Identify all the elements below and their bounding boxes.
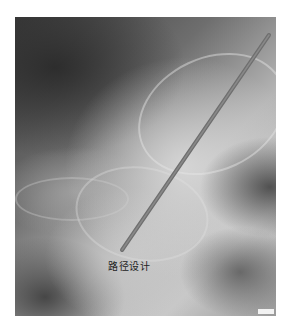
path-design-label: 路径设计 [108,258,150,273]
trajectory-line [0,0,287,330]
